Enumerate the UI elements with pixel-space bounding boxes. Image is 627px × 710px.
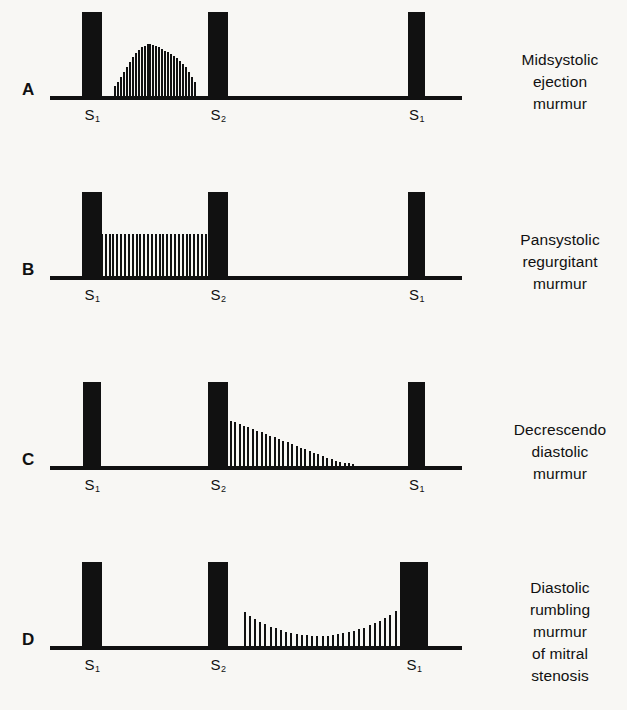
heart-sound-bar (208, 12, 228, 96)
phonocardiogram-trace-a (50, 0, 462, 100)
heart-sound-number: 1 (95, 114, 100, 124)
heart-sound-letter: S (409, 476, 419, 493)
heart-sound-number: 1 (417, 664, 422, 674)
caption-line: murmur (497, 463, 623, 485)
heart-sound-letter: S (84, 286, 94, 303)
panel-a: AS1S2S1Midsystolicejectionmurmur (0, 0, 627, 180)
baseline (50, 276, 462, 280)
caption-line: Diastolic (497, 577, 623, 599)
heart-sound-number: 1 (95, 294, 100, 304)
heart-sound-letter: S (409, 106, 419, 123)
heart-sound-bar (82, 562, 102, 646)
heart-sound-label: S2 (210, 476, 225, 493)
heart-sound-label: S2 (210, 286, 225, 303)
panel-c: CS1S2S1Decrescendodiastolicmurmur (0, 370, 627, 550)
heart-sound-label: S2 (210, 656, 225, 673)
heart-sound-number: 2 (221, 114, 226, 124)
caption-line: stenosis (497, 665, 623, 687)
heart-sound-bar (408, 382, 425, 466)
caption-line: of mitral (497, 643, 623, 665)
murmur-bars (217, 382, 355, 466)
heart-sound-label: S2 (210, 106, 225, 123)
phonocardiogram-trace-c (50, 370, 462, 470)
heart-sound-bar (82, 192, 102, 276)
heart-sound-label: S1 (406, 656, 421, 673)
heart-sound-number: 2 (221, 664, 226, 674)
caption-line: Midsystolic (497, 49, 623, 71)
heart-sound-bar (400, 562, 428, 646)
heart-sound-bar (408, 12, 425, 96)
panel-letter-c: C (22, 450, 35, 470)
baseline (50, 646, 462, 650)
heart-sound-number: 2 (221, 484, 226, 494)
heart-sound-number: 1 (95, 664, 100, 674)
murmur-caption-c: Decrescendodiastolicmurmur (497, 419, 623, 485)
murmur-caption-b: Pansystolicregurgitantmurmur (497, 229, 623, 295)
caption-line: murmur (497, 621, 623, 643)
heart-sound-letter: S (210, 106, 220, 123)
heart-sound-bar (82, 12, 102, 96)
phonocardiogram-trace-d (50, 550, 462, 650)
caption-line: murmur (497, 273, 623, 295)
caption-line: Pansystolic (497, 229, 623, 251)
murmur-caption-a: Midsystolicejectionmurmur (497, 49, 623, 115)
murmur-bars (244, 562, 413, 646)
heart-sound-number: 2 (221, 294, 226, 304)
heart-sound-label: S1 (84, 656, 99, 673)
heart-sound-label: S1 (409, 476, 424, 493)
heart-sound-bar (408, 192, 425, 276)
heart-sound-letter: S (84, 656, 94, 673)
heart-sound-label: S1 (84, 476, 99, 493)
phonocardiogram-figure: AS1S2S1MidsystolicejectionmurmurBS1S2S1P… (0, 0, 627, 710)
heart-sound-number: 1 (420, 114, 425, 124)
panel-letter-a: A (22, 80, 35, 100)
murmur-bars (93, 192, 215, 276)
panel-letter-d: D (22, 630, 35, 650)
murmur-caption-d: Diastolicrumblingmurmurof mitralstenosis (497, 577, 623, 687)
panel-d: DS1S2S1Diastolicrumblingmurmurof mitrals… (0, 550, 627, 710)
heart-sound-bar (83, 382, 101, 466)
caption-line: ejection (497, 71, 623, 93)
heart-sound-label: S1 (84, 106, 99, 123)
panel-letter-b: B (22, 260, 35, 280)
caption-line: regurgitant (497, 251, 623, 273)
heart-sound-bar (208, 562, 228, 646)
heart-sound-bar (208, 382, 228, 466)
murmur-bars (114, 12, 196, 96)
heart-sound-label: S1 (409, 106, 424, 123)
heart-sound-number: 1 (420, 294, 425, 304)
heart-sound-label: S1 (409, 286, 424, 303)
heart-sound-letter: S (409, 286, 419, 303)
heart-sound-number: 1 (95, 484, 100, 494)
caption-line: Decrescendo (497, 419, 623, 441)
caption-line: rumbling (497, 599, 623, 621)
heart-sound-letter: S (406, 656, 416, 673)
phonocardiogram-trace-b (50, 180, 462, 280)
caption-line: murmur (497, 93, 623, 115)
panel-b: BS1S2S1Pansystolicregurgitantmurmur (0, 180, 627, 360)
baseline (50, 466, 462, 470)
heart-sound-letter: S (210, 286, 220, 303)
heart-sound-letter: S (84, 106, 94, 123)
heart-sound-letter: S (84, 476, 94, 493)
heart-sound-bar (208, 192, 228, 276)
heart-sound-number: 1 (420, 484, 425, 494)
heart-sound-letter: S (210, 476, 220, 493)
heart-sound-letter: S (210, 656, 220, 673)
baseline (50, 96, 462, 100)
caption-line: diastolic (497, 441, 623, 463)
heart-sound-label: S1 (84, 286, 99, 303)
